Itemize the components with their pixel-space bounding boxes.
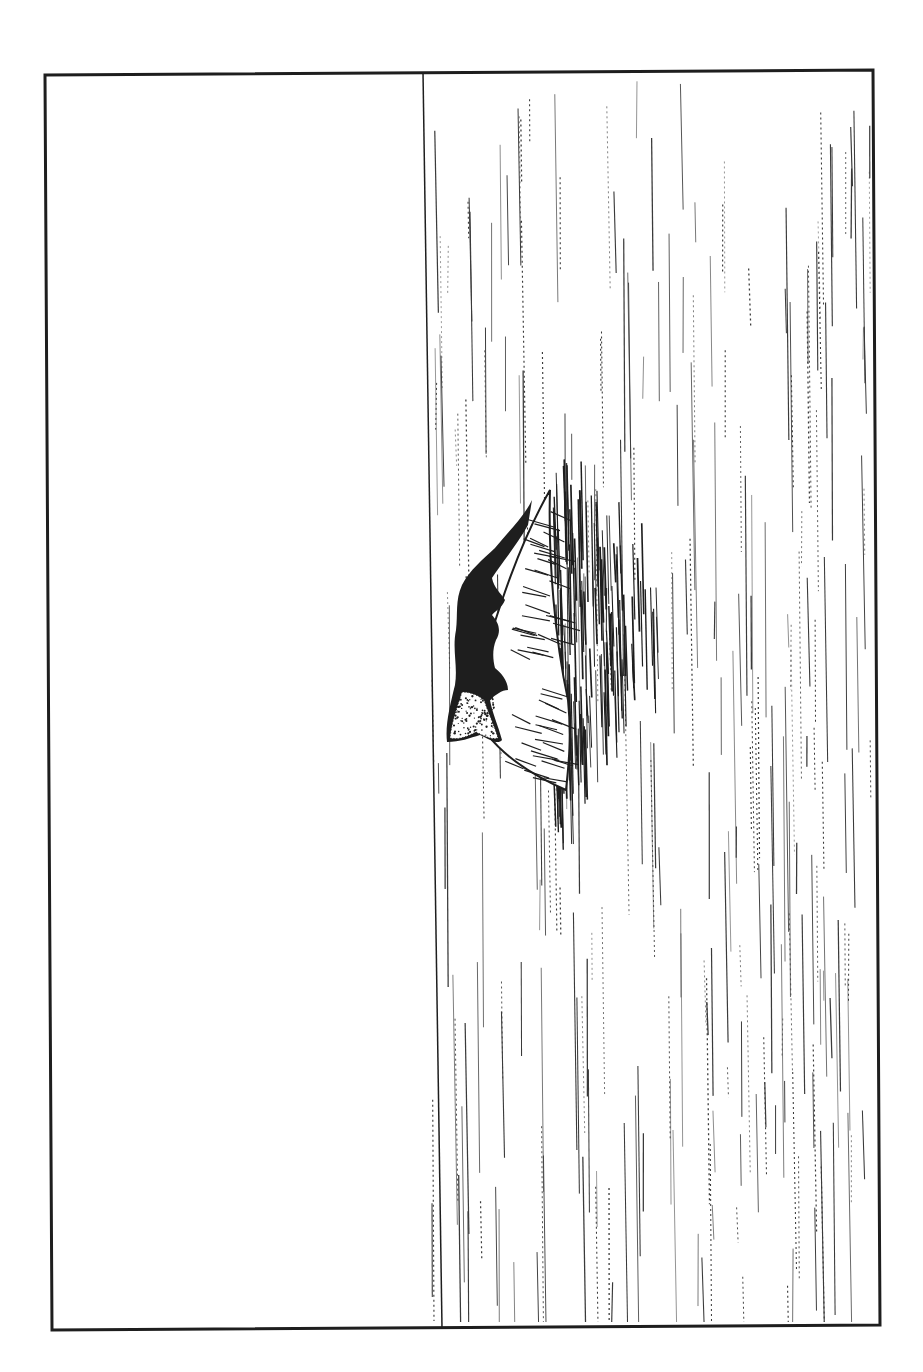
bank-shadow-hatching	[553, 459, 658, 849]
horizon-line	[423, 72, 442, 1328]
illustration-canvas	[0, 0, 923, 1372]
